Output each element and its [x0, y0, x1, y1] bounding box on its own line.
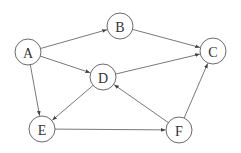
nodes-layer: ABCDEF [15, 13, 226, 143]
edge-d-to-c [116, 54, 200, 74]
edge-e-to-f [55, 129, 166, 130]
edge-b-to-c [133, 29, 200, 47]
node-b: B [107, 13, 133, 39]
node-d: D [90, 64, 116, 90]
edge-f-to-d [114, 85, 168, 123]
edge-a-to-e [30, 65, 39, 116]
node-label: A [23, 46, 34, 61]
node-label: D [98, 71, 108, 86]
node-e: E [29, 116, 55, 142]
node-label: C [208, 45, 217, 60]
directed-graph-diagram: ABCDEF [0, 0, 241, 153]
node-c: C [200, 38, 226, 64]
edge-f-to-c [184, 63, 208, 118]
node-label: E [38, 123, 47, 138]
edge-d-to-e [52, 85, 93, 120]
node-label: B [115, 20, 124, 35]
node-a: A [15, 39, 41, 65]
node-f: F [166, 117, 192, 143]
edge-a-to-d [40, 56, 90, 73]
edge-a-to-b [41, 30, 108, 49]
edges-layer [30, 29, 207, 129]
node-label: F [175, 124, 183, 139]
